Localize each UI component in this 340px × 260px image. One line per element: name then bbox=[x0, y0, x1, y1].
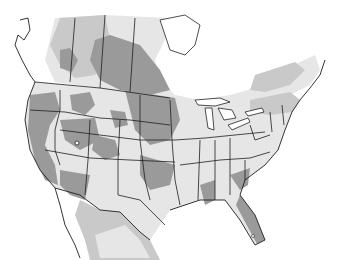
range-map bbox=[0, 0, 340, 260]
map-svg bbox=[0, 0, 340, 260]
lake-okeechobee bbox=[252, 235, 255, 238]
hudson-bay bbox=[160, 15, 200, 55]
great-salt-lake bbox=[75, 141, 79, 145]
